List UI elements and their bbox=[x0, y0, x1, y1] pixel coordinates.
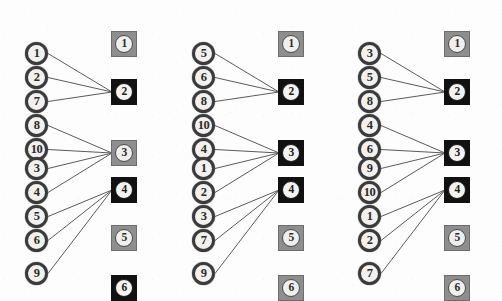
left-node-label: 4 bbox=[34, 186, 40, 199]
left-node: 10 bbox=[358, 181, 381, 204]
edge-line bbox=[48, 78, 112, 93]
square-disc: 3 bbox=[115, 144, 133, 162]
square-label: 2 bbox=[121, 86, 126, 98]
left-node: 4 bbox=[358, 114, 381, 137]
left-node-label: 7 bbox=[201, 234, 207, 247]
right-square-node: 5 bbox=[111, 225, 137, 251]
left-node-label: 9 bbox=[34, 267, 40, 280]
square-disc: 4 bbox=[282, 181, 300, 199]
right-square-node: 1 bbox=[444, 31, 470, 57]
square-label: 4 bbox=[454, 184, 459, 196]
edge-line bbox=[215, 190, 279, 274]
square-disc: 1 bbox=[115, 35, 133, 53]
diagram-canvas: 1278103456912345656810412379123456358469… bbox=[0, 0, 502, 301]
left-node: 9 bbox=[192, 262, 215, 285]
left-node: 1 bbox=[358, 205, 381, 228]
edge-line bbox=[215, 190, 279, 241]
square-disc: 5 bbox=[115, 229, 133, 247]
left-node: 1 bbox=[192, 157, 215, 180]
left-node: 8 bbox=[192, 90, 215, 113]
square-label: 6 bbox=[454, 282, 459, 294]
left-node: 2 bbox=[25, 66, 48, 89]
square-disc: 4 bbox=[448, 181, 466, 199]
square-label: 3 bbox=[121, 147, 126, 159]
edge-line bbox=[215, 126, 279, 154]
edge-line bbox=[48, 54, 112, 93]
left-node: 5 bbox=[192, 42, 215, 65]
left-node-label: 5 bbox=[201, 47, 207, 60]
bipartite-panel: 12781034569123456 bbox=[0, 0, 151, 301]
left-node: 7 bbox=[358, 262, 381, 285]
left-node-label: 9 bbox=[201, 267, 207, 280]
square-disc: 1 bbox=[448, 35, 466, 53]
left-node-label: 5 bbox=[34, 210, 40, 223]
edge-line bbox=[48, 153, 112, 193]
right-square-node: 1 bbox=[278, 31, 304, 57]
right-square-node: 2 bbox=[444, 79, 470, 105]
left-node-label: 6 bbox=[34, 234, 40, 247]
right-square-node: 5 bbox=[444, 225, 470, 251]
square-label: 6 bbox=[288, 282, 293, 294]
edge-line bbox=[215, 190, 279, 217]
left-node: 10 bbox=[192, 114, 215, 137]
edge-line bbox=[48, 190, 112, 217]
square-disc: 6 bbox=[282, 279, 300, 297]
left-node-label: 2 bbox=[34, 71, 40, 84]
left-node-label: 6 bbox=[201, 71, 207, 84]
left-node-label: 8 bbox=[367, 95, 373, 108]
left-node-label: 10 bbox=[198, 119, 210, 132]
bipartite-panel: 56810412379123456 bbox=[167, 0, 318, 301]
edge-line bbox=[215, 153, 279, 193]
edge-line bbox=[381, 190, 445, 217]
left-node-label: 1 bbox=[34, 47, 40, 60]
right-square-node: 5 bbox=[278, 225, 304, 251]
edge-line bbox=[48, 153, 112, 169]
left-node: 9 bbox=[25, 262, 48, 285]
square-disc: 2 bbox=[115, 83, 133, 101]
right-square-node: 1 bbox=[111, 31, 137, 57]
square-label: 1 bbox=[454, 38, 459, 50]
square-label: 1 bbox=[121, 38, 126, 50]
square-label: 3 bbox=[454, 147, 459, 159]
left-node-label: 3 bbox=[34, 162, 40, 175]
left-node-label: 8 bbox=[34, 119, 40, 132]
square-label: 3 bbox=[288, 147, 293, 159]
square-label: 2 bbox=[288, 86, 293, 98]
left-node: 2 bbox=[192, 181, 215, 204]
square-label: 5 bbox=[288, 232, 293, 244]
edge-line bbox=[48, 150, 112, 154]
right-square-node: 3 bbox=[111, 140, 137, 166]
left-node: 3 bbox=[192, 205, 215, 228]
square-label: 2 bbox=[454, 86, 459, 98]
square-label: 4 bbox=[288, 184, 293, 196]
square-disc: 5 bbox=[282, 229, 300, 247]
square-disc: 1 bbox=[282, 35, 300, 53]
edge-line bbox=[215, 92, 279, 102]
edge-line bbox=[215, 78, 279, 93]
square-disc: 4 bbox=[115, 181, 133, 199]
left-node-label: 4 bbox=[367, 119, 373, 132]
left-node-label: 8 bbox=[201, 95, 207, 108]
square-label: 5 bbox=[454, 232, 459, 244]
edge-line bbox=[48, 126, 112, 154]
left-node-label: 7 bbox=[367, 267, 373, 280]
edge-line bbox=[381, 54, 445, 93]
square-label: 5 bbox=[121, 232, 126, 244]
square-label: 4 bbox=[121, 184, 126, 196]
left-node: 3 bbox=[25, 157, 48, 180]
right-square-node: 6 bbox=[278, 275, 304, 301]
left-node-label: 5 bbox=[367, 71, 373, 84]
right-square-node: 4 bbox=[111, 177, 137, 203]
right-square-node: 2 bbox=[111, 79, 137, 105]
square-disc: 5 bbox=[448, 229, 466, 247]
square-disc: 6 bbox=[115, 279, 133, 297]
bipartite-panel: 35846910127123456 bbox=[333, 0, 484, 301]
right-square-node: 3 bbox=[444, 140, 470, 166]
left-node: 6 bbox=[192, 66, 215, 89]
left-node-label: 3 bbox=[367, 47, 373, 60]
left-node: 2 bbox=[358, 229, 381, 252]
edge-line bbox=[381, 153, 445, 193]
square-disc: 2 bbox=[282, 83, 300, 101]
left-node-label: 1 bbox=[201, 162, 207, 175]
edge-line bbox=[381, 78, 445, 93]
